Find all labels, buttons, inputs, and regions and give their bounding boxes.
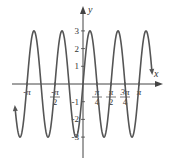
sine-graph: x y -π-π2π4π23π4π321-1-2-3 (0, 0, 169, 164)
y-axis-label: y (87, 4, 93, 15)
y-tick-label: 1 (75, 61, 80, 71)
arrowhead-icon (13, 105, 18, 111)
y-tick-label: 3 (75, 26, 80, 36)
x-axis-arrow-icon (155, 81, 163, 87)
y-axis-arrow-icon (80, 6, 86, 14)
y-tick-label: 2 (75, 44, 80, 54)
y-tick-label: -1 (72, 97, 80, 107)
y-axis: y (80, 4, 93, 158)
